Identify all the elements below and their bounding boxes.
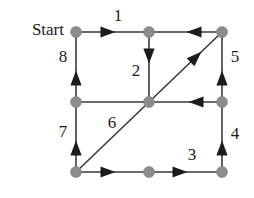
arrowhead-icon [173, 166, 188, 177]
edge-label: 8 [59, 47, 68, 66]
edge-label: 5 [231, 47, 240, 66]
graph-node [217, 27, 228, 38]
edge-label: 1 [114, 6, 123, 25]
arrowhead-icon [101, 166, 116, 177]
graph-node [144, 167, 155, 178]
graph-node [71, 27, 82, 38]
graph-node [217, 97, 228, 108]
start-label: Start [32, 20, 64, 39]
arrowhead-icon [70, 141, 81, 156]
graph-node [144, 97, 155, 108]
graph-diagram: 12345678 Start [0, 0, 254, 198]
arrowhead-icon [143, 49, 154, 64]
arrowhead-icon [189, 96, 204, 107]
diagram-canvas: 12345678 Start [0, 0, 254, 198]
arrowhead-icon [216, 71, 227, 86]
edge-label: 2 [132, 61, 141, 80]
edge-label: 4 [231, 124, 240, 143]
graph-node [144, 27, 155, 38]
edge-label: 6 [108, 113, 117, 132]
edge-label: 3 [188, 145, 197, 164]
arrowhead-icon [187, 26, 202, 37]
graph-node [71, 97, 82, 108]
edge-label: 7 [59, 122, 68, 141]
graph-node [71, 167, 82, 178]
graph-node [217, 167, 228, 178]
arrowhead-icon [70, 71, 81, 86]
arrowhead-icon [216, 141, 227, 156]
arrowhead-icon [101, 26, 116, 37]
